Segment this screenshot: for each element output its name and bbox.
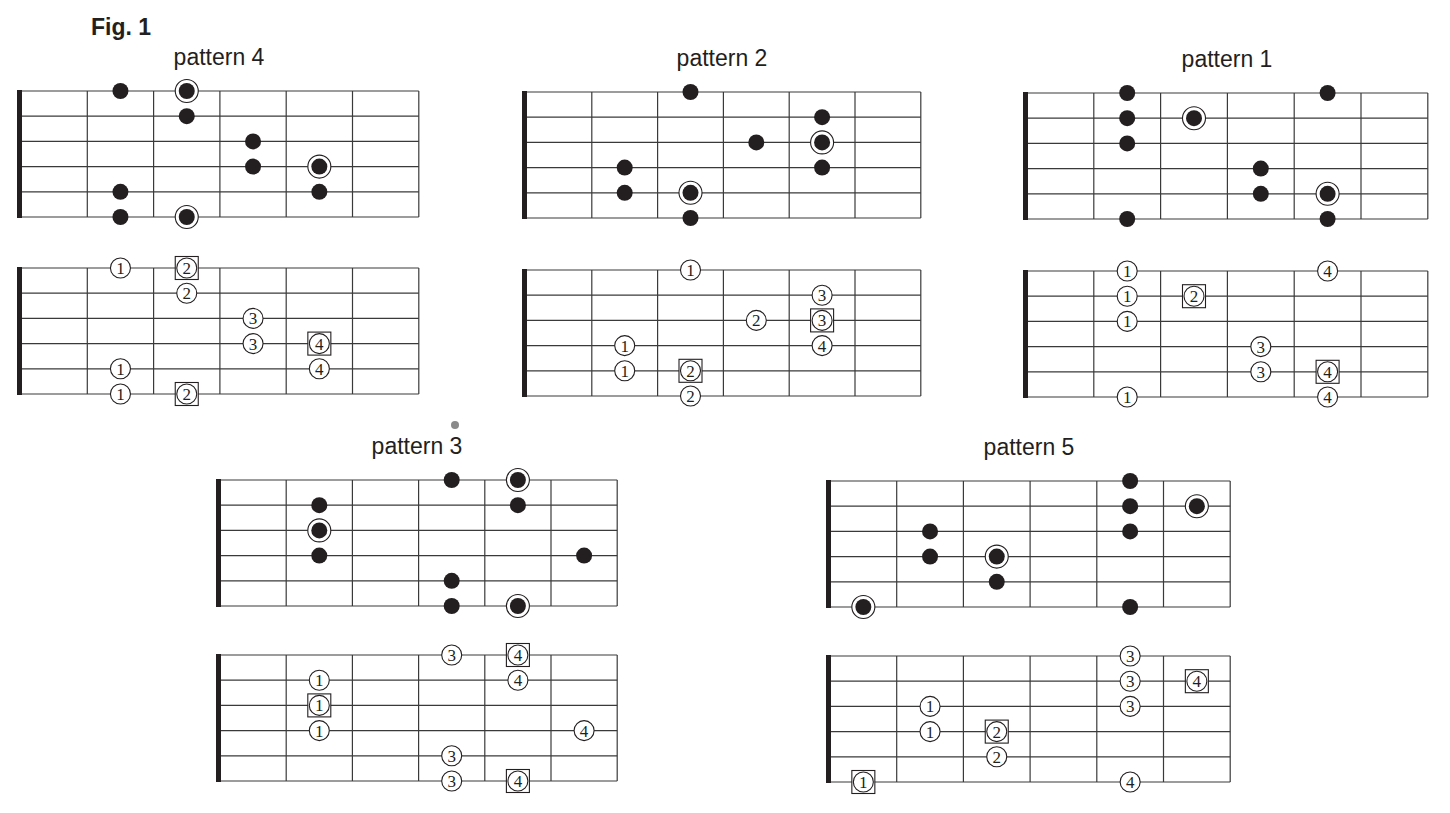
root-note-dot (989, 549, 1005, 565)
finger-number: 1 (620, 337, 629, 356)
finger-number: 3 (818, 311, 827, 330)
nut (826, 655, 831, 783)
finger-number: 3 (1257, 363, 1266, 382)
finger-number: 4 (1323, 363, 1332, 382)
finger-number: 2 (686, 362, 695, 381)
finger-number: 4 (818, 337, 827, 356)
note-dot (617, 160, 633, 176)
note-dot (1320, 211, 1336, 227)
finger-number: 1 (686, 261, 695, 280)
note-dot (1253, 186, 1269, 202)
note-dot (922, 549, 938, 565)
finger-number: 4 (514, 772, 523, 791)
pattern-1-fretboard (1023, 85, 1428, 227)
nut (522, 91, 527, 219)
note-dot (112, 184, 128, 200)
finger-number: 1 (1123, 312, 1132, 331)
finger-number: 3 (1126, 647, 1135, 666)
nut (216, 654, 221, 782)
note-dot (179, 108, 195, 124)
ink-speck (451, 421, 459, 429)
root-note-dot (510, 598, 526, 614)
finger-number: 1 (315, 722, 324, 741)
note-dot (311, 548, 327, 564)
finger-number: 1 (1123, 287, 1132, 306)
note-dot (444, 598, 460, 614)
finger-number: 3 (447, 646, 456, 665)
root-note-dot (179, 209, 195, 225)
note-dot (1119, 135, 1135, 151)
finger-number: 1 (1123, 262, 1132, 281)
note-dot (1119, 211, 1135, 227)
root-note-dot (855, 599, 871, 615)
note-dot (683, 84, 699, 100)
root-note-dot (510, 472, 526, 488)
root-note-dot (1189, 498, 1205, 514)
finger-number: 4 (1323, 262, 1332, 281)
finger-number: 1 (926, 723, 935, 742)
finger-number: 4 (1323, 388, 1332, 407)
finger-number: 4 (580, 722, 589, 741)
pattern-4-fingering: 1223341412 (17, 257, 419, 406)
note-dot (112, 209, 128, 225)
root-note-dot (179, 83, 195, 99)
nut (522, 269, 527, 397)
finger-number: 4 (1126, 773, 1135, 792)
note-dot (1122, 473, 1138, 489)
note-dot (444, 573, 460, 589)
note-dot (444, 472, 460, 488)
pattern-5-fingering: 3341312214 (826, 646, 1230, 794)
finger-number: 4 (514, 671, 523, 690)
finger-number: 2 (1190, 287, 1199, 306)
finger-number: 2 (183, 284, 192, 303)
note-dot (1122, 498, 1138, 514)
note-dot (245, 133, 261, 149)
finger-number: 3 (1257, 338, 1266, 357)
nut (1023, 92, 1028, 220)
finger-number: 1 (116, 259, 125, 278)
note-dot (1122, 523, 1138, 539)
finger-number: 1 (116, 385, 125, 404)
finger-number: 1 (1123, 388, 1132, 407)
finger-number: 3 (818, 286, 827, 305)
root-note-dot (311, 522, 327, 538)
note-dot (814, 160, 830, 176)
root-note-dot (1186, 110, 1202, 126)
finger-number: 3 (1126, 672, 1135, 691)
finger-number: 1 (620, 362, 629, 381)
finger-number: 1 (926, 697, 935, 716)
pattern-1-fingering: 1412133414 (1023, 261, 1428, 407)
note-dot (617, 185, 633, 201)
root-note-dot (311, 159, 327, 175)
finger-number: 3 (447, 772, 456, 791)
note-dot (510, 497, 526, 513)
note-dot (989, 574, 1005, 590)
finger-number: 1 (315, 671, 324, 690)
note-dot (1119, 110, 1135, 126)
pattern-3-fingering: 3414114334 (216, 644, 617, 793)
note-dot (112, 83, 128, 99)
finger-number: 4 (315, 335, 324, 354)
finger-number: 2 (752, 311, 761, 330)
note-dot (576, 548, 592, 564)
finger-number: 3 (249, 335, 258, 354)
pattern-4-fretboard (17, 80, 419, 229)
root-note-dot (1320, 186, 1336, 202)
note-dot (1119, 85, 1135, 101)
root-note-dot (814, 134, 830, 150)
nut (17, 267, 22, 395)
note-dot (814, 109, 830, 125)
finger-number: 2 (183, 385, 192, 404)
finger-number: 4 (315, 360, 324, 379)
note-dot (1253, 161, 1269, 177)
root-note-dot (683, 185, 699, 201)
note-dot (922, 523, 938, 539)
pattern-2-fingering: 132314122 (522, 260, 921, 406)
finger-number: 1 (315, 696, 324, 715)
finger-number: 3 (447, 747, 456, 766)
nut (1023, 270, 1028, 398)
nut (17, 90, 22, 218)
note-dot (245, 159, 261, 175)
note-dot (311, 497, 327, 513)
finger-number: 2 (993, 723, 1002, 742)
